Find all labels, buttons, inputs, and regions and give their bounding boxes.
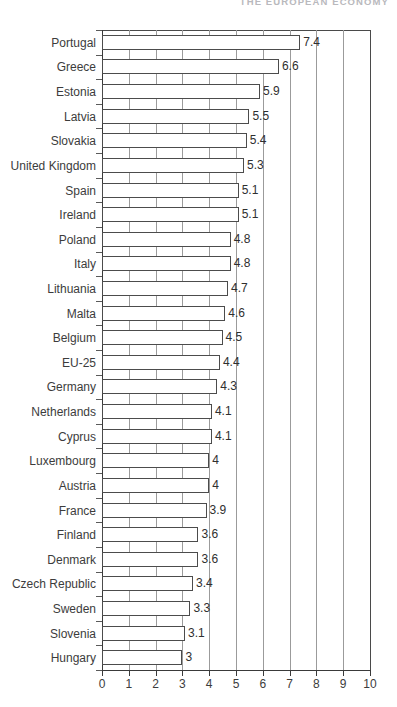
bar: [102, 256, 231, 271]
y-axis-tick: [96, 276, 102, 277]
bar-row: 4.7: [102, 281, 370, 296]
bar-value-label: 3.6: [201, 528, 218, 541]
bar-row: 4.6: [102, 306, 370, 321]
bar-row: 6.6: [102, 59, 370, 74]
bar: [102, 453, 209, 468]
bar-row: 5.1: [102, 207, 370, 222]
y-axis-tick: [96, 572, 102, 573]
bar-value-label: 4.8: [234, 257, 251, 270]
x-axis-tick-label: 3: [179, 677, 186, 691]
bar: [102, 552, 198, 567]
bar: [102, 158, 244, 173]
x-axis-tick-label: 8: [313, 677, 320, 691]
bar-row: 3.4: [102, 576, 370, 591]
bar: [102, 601, 190, 616]
category-label: Greece: [0, 60, 96, 74]
y-axis-tick: [96, 79, 102, 80]
category-label: Lithuania: [0, 282, 96, 296]
x-axis-tick-label: 9: [340, 677, 347, 691]
y-axis-tick: [96, 325, 102, 326]
bar: [102, 404, 212, 419]
bar-row: 4.1: [102, 404, 370, 419]
bar-value-label: 5.1: [242, 184, 259, 197]
bar-row: 4: [102, 453, 370, 468]
x-axis-tick-label: 0: [99, 677, 106, 691]
category-label: Finland: [0, 528, 96, 542]
bar-row: 4.5: [102, 330, 370, 345]
category-label: Cyprus: [0, 430, 96, 444]
category-label: Slovenia: [0, 627, 96, 641]
bar-row: 3.6: [102, 527, 370, 542]
category-label: Czech Republic: [0, 577, 96, 591]
bar-row: 5.5: [102, 109, 370, 124]
gridline: [343, 30, 344, 670]
bar-value-label: 4.5: [226, 331, 243, 344]
x-axis-tick-label: 7: [286, 677, 293, 691]
y-axis-tick: [96, 498, 102, 499]
bar-value-label: 3: [185, 651, 192, 664]
bar-value-label: 5.1: [242, 208, 259, 221]
bar: [102, 429, 212, 444]
y-axis-tick: [96, 621, 102, 622]
y-axis-tick: [96, 350, 102, 351]
bar-value-label: 3.6: [201, 553, 218, 566]
y-axis-tick: [96, 547, 102, 548]
x-axis-tick: [263, 671, 264, 676]
x-axis-tick: [209, 671, 210, 676]
y-axis-tick: [96, 670, 102, 671]
x-axis-tick-label: 5: [233, 677, 240, 691]
y-axis-tick: [96, 522, 102, 523]
gridline: [236, 30, 237, 670]
bar-value-label: 4.8: [234, 233, 251, 246]
category-label: Luxembourg: [0, 454, 96, 468]
x-axis-tick-label: 1: [125, 677, 132, 691]
bar-chart: 012345678910 7.46.65.95.55.45.35.15.14.8…: [0, 0, 397, 707]
chart-frame-right: [370, 30, 371, 671]
y-axis-tick: [96, 227, 102, 228]
y-axis-tick: [96, 153, 102, 154]
bar: [102, 59, 279, 74]
y-axis-tick: [96, 128, 102, 129]
category-label: Malta: [0, 307, 96, 321]
bar: [102, 650, 182, 665]
gridline: [290, 30, 291, 670]
category-label: Sweden: [0, 602, 96, 616]
gridline: [129, 30, 130, 670]
category-label: Italy: [0, 257, 96, 271]
bar: [102, 306, 225, 321]
x-axis-tick: [236, 671, 237, 676]
bar-row: 5.3: [102, 158, 370, 173]
x-axis-tick-label: 2: [152, 677, 159, 691]
y-axis-tick: [96, 424, 102, 425]
bar-row: 5.4: [102, 133, 370, 148]
bar: [102, 109, 249, 124]
bar-row: 3.1: [102, 626, 370, 641]
bar: [102, 379, 217, 394]
bar: [102, 330, 223, 345]
category-label: Denmark: [0, 553, 96, 567]
bar-value-label: 4.7: [231, 282, 248, 295]
category-label: Germany: [0, 380, 96, 394]
category-label: Ireland: [0, 208, 96, 222]
category-label: Netherlands: [0, 405, 96, 419]
x-axis-tick-label: 4: [206, 677, 213, 691]
bar-value-label: 7.4: [303, 36, 320, 49]
bar-value-label: 4: [212, 454, 219, 467]
bar-row: 3.9: [102, 503, 370, 518]
bar-row: 5.1: [102, 183, 370, 198]
bar-value-label: 3.9: [210, 504, 227, 517]
y-axis-tick: [96, 178, 102, 179]
bar: [102, 232, 231, 247]
bar-value-label: 5.9: [263, 85, 280, 98]
bar: [102, 183, 239, 198]
y-axis-tick: [96, 448, 102, 449]
bar-row: 4.8: [102, 232, 370, 247]
bar-row: 3: [102, 650, 370, 665]
category-label: France: [0, 504, 96, 518]
y-axis-tick: [96, 252, 102, 253]
bar-value-label: 4.1: [215, 405, 232, 418]
bar-value-label: 3.3: [193, 602, 210, 615]
gridline: [209, 30, 210, 670]
y-axis-line: [102, 30, 103, 671]
category-label: Estonia: [0, 85, 96, 99]
